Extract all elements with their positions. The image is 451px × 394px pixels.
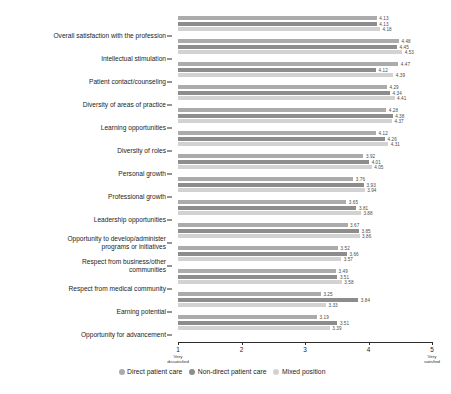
bar bbox=[178, 62, 398, 66]
bar bbox=[178, 252, 347, 256]
bar-value-label: 4.39 bbox=[396, 72, 405, 77]
bar bbox=[178, 154, 363, 158]
category-label: Opportunity to develop/administer progra… bbox=[67, 234, 166, 250]
x-axis-tick bbox=[242, 342, 243, 345]
category-tick bbox=[167, 265, 172, 266]
category-tick bbox=[167, 104, 172, 105]
legend-item[interactable]: Non-direct patient care bbox=[189, 368, 266, 375]
category-tick bbox=[167, 196, 172, 197]
bar bbox=[178, 234, 360, 238]
bar bbox=[178, 131, 376, 135]
bar bbox=[178, 22, 377, 26]
bar bbox=[178, 142, 388, 146]
legend-swatch-icon bbox=[189, 369, 195, 375]
bar bbox=[178, 229, 359, 233]
bar-value-label: 4.12 bbox=[379, 131, 388, 136]
x-axis-tick bbox=[369, 342, 370, 345]
bar bbox=[178, 188, 365, 192]
bar bbox=[178, 303, 326, 307]
bar bbox=[178, 85, 387, 89]
legend-label: Non-direct patient care bbox=[198, 368, 267, 375]
x-axis-tick-label: 4 bbox=[367, 346, 371, 353]
bar bbox=[178, 246, 338, 250]
bar-value-label: 4.53 bbox=[405, 49, 414, 54]
category-tick bbox=[167, 311, 172, 312]
category-tick bbox=[167, 288, 172, 289]
category-tick bbox=[167, 173, 172, 174]
bar-value-label: 4.18 bbox=[382, 26, 391, 31]
bar bbox=[178, 45, 397, 49]
category-tick bbox=[167, 81, 172, 82]
bar bbox=[178, 257, 341, 261]
category-label: Respect from business/other communities bbox=[82, 257, 166, 273]
bar bbox=[178, 160, 369, 164]
bar-value-label: 3.86 bbox=[362, 233, 371, 238]
category-label: Diversity of areas of practice bbox=[83, 100, 166, 108]
bar bbox=[178, 16, 377, 20]
bar-value-label: 4.37 bbox=[394, 118, 403, 123]
legend-item[interactable]: Mixed position bbox=[273, 368, 325, 375]
x-axis-tick-sublabel: Very satisfied bbox=[415, 354, 449, 364]
category-tick bbox=[167, 334, 172, 335]
bar bbox=[178, 315, 317, 319]
x-axis-tick-label: 3 bbox=[303, 346, 307, 353]
x-axis-tick-label: 5 bbox=[430, 346, 434, 353]
bar bbox=[178, 137, 385, 141]
category-tick bbox=[167, 58, 172, 59]
bar-value-label: 3.52 bbox=[341, 246, 350, 251]
x-axis-tick-label: 2 bbox=[240, 346, 244, 353]
bar-value-label: 3.88 bbox=[363, 210, 372, 215]
bar-value-label: 4.05 bbox=[374, 164, 383, 169]
category-tick bbox=[167, 127, 172, 128]
category-label: Personal growth bbox=[118, 169, 166, 177]
category-tick bbox=[167, 242, 172, 243]
bar bbox=[178, 91, 390, 95]
category-label: Overall satisfaction with the profession bbox=[53, 31, 166, 39]
bar-value-label: 3.25 bbox=[323, 292, 332, 297]
x-axis-tick bbox=[178, 342, 179, 345]
category-label: Diversity of roles bbox=[117, 146, 166, 154]
category-label: Professional growth bbox=[108, 192, 166, 200]
legend-item[interactable]: Direct patient care bbox=[119, 368, 183, 375]
legend-swatch-icon bbox=[273, 369, 279, 375]
bar-value-label: 3.67 bbox=[350, 223, 359, 228]
bar bbox=[178, 165, 372, 169]
bar bbox=[178, 119, 392, 123]
bar bbox=[178, 206, 356, 210]
bar-value-label: 3.94 bbox=[367, 187, 376, 192]
x-axis-tick-sublabel: Very dissatisfied bbox=[161, 354, 195, 364]
category-label: Patient contact/counseling bbox=[89, 77, 166, 85]
bar-value-label: 4.41 bbox=[397, 95, 406, 100]
legend-label: Mixed position bbox=[282, 368, 325, 375]
legend-swatch-icon bbox=[119, 369, 125, 375]
bar-value-label: 3.57 bbox=[344, 256, 353, 261]
bar-value-label: 4.31 bbox=[391, 141, 400, 146]
bar bbox=[178, 275, 337, 279]
bar bbox=[178, 68, 376, 72]
category-label: Respect from medical community bbox=[69, 284, 166, 292]
bar-value-label: 3.39 bbox=[332, 325, 341, 330]
bar-rows: 4.134.134.184.484.454.534.474.124.394.29… bbox=[178, 12, 432, 334]
bar bbox=[178, 200, 346, 204]
bar-value-label: 3.58 bbox=[344, 279, 353, 284]
bar-value-label: 4.47 bbox=[401, 62, 410, 67]
bar bbox=[178, 280, 342, 284]
x-axis-tick bbox=[305, 342, 306, 345]
bar bbox=[178, 183, 364, 187]
bar bbox=[178, 298, 358, 302]
bar bbox=[178, 326, 330, 330]
x-axis-tick bbox=[432, 342, 433, 345]
legend-label: Direct patient care bbox=[127, 368, 182, 375]
category-axis: Overall satisfaction with the profession… bbox=[0, 12, 172, 334]
chart-legend: Direct patient careNon-direct patient ca… bbox=[0, 368, 451, 375]
satisfaction-bar-chart: Overall satisfaction with the profession… bbox=[0, 0, 451, 394]
bar bbox=[178, 108, 386, 112]
bar bbox=[178, 50, 402, 54]
category-label: Learning opportunities bbox=[101, 123, 166, 131]
bar bbox=[178, 292, 321, 296]
category-label: Leadership opportunities bbox=[94, 215, 166, 223]
bar-value-label: 3.84 bbox=[361, 297, 370, 302]
category-label: Earning potential bbox=[117, 307, 167, 315]
bar-value-label: 3.19 bbox=[320, 315, 329, 320]
category-tick bbox=[167, 150, 172, 151]
